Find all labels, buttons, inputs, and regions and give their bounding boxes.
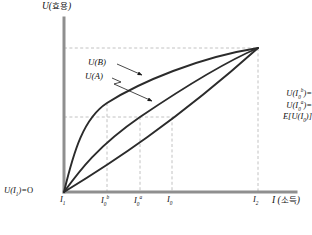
curve-UA <box>64 48 258 192</box>
tick-label-I0b: I0b <box>101 195 109 207</box>
curve-UB <box>64 48 258 192</box>
tick-label-I2: I2 <box>253 195 258 206</box>
tick-label-I0: I0 <box>167 195 172 206</box>
curve-chord <box>64 48 258 192</box>
utility-curves <box>64 48 258 192</box>
curve-label-UB: U(B) <box>88 58 106 67</box>
utility-function-chart: U(효용) I (소득) U(B) U(A) U(I0b)= U(I0a)= E… <box>0 0 312 235</box>
ylabel-expected-utility: E[U(I0)] <box>250 112 312 123</box>
x-axis-title: I (소득) <box>272 196 300 206</box>
x-axis-title-korean: 소득 <box>281 195 297 205</box>
y-axis-title-korean: 효용 <box>52 1 68 11</box>
tick-label-I1: I1 <box>60 195 65 206</box>
arrow-to-UB <box>117 64 142 75</box>
curve-label-UA: U(A) <box>85 72 103 81</box>
y-axis-value-labels: U(I0b)= U(I0a)= E[U(I0)] <box>250 88 312 123</box>
tick-label-I0a: I0a <box>134 195 142 207</box>
y-axis-title: U(효용) <box>42 2 71 12</box>
origin-label: U(I1)=O <box>4 186 33 197</box>
